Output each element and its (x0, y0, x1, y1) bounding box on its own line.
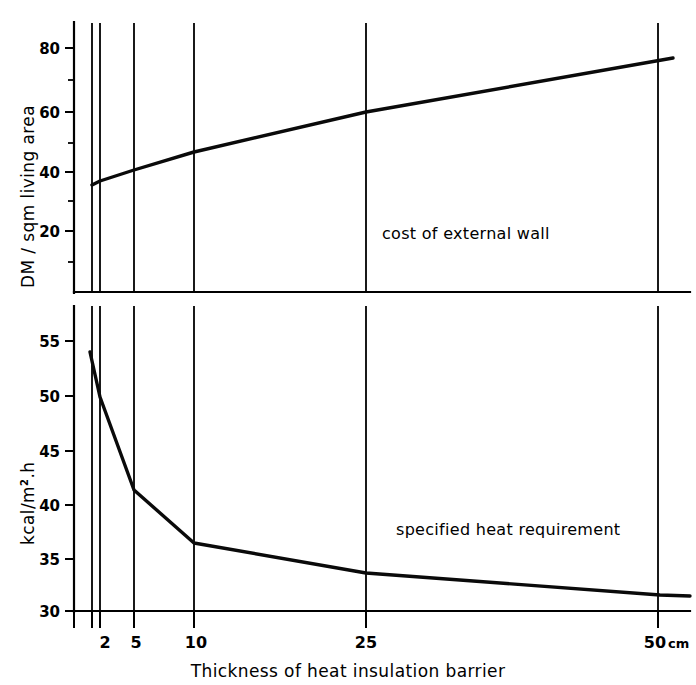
bottom-y-axis-title-group: kcal/m2.h (18, 462, 38, 545)
bottom-gridlines (92, 306, 658, 611)
top-series-annotation: cost of external wall (382, 224, 550, 243)
top-y-ticks (65, 48, 74, 262)
xaxis-unit-label: cm (668, 636, 689, 651)
series-specified-heat-requirement (90, 352, 690, 596)
chart-figure: 80 60 40 20 DM / sqm living area cost of… (0, 0, 696, 685)
top-panel: 80 60 40 20 DM / sqm living area cost of… (18, 22, 690, 293)
xtick-label-2: 2 (99, 633, 110, 652)
bottom-ytick-label-55: 55 (39, 333, 60, 351)
xtick-label-50: 50 (644, 633, 666, 652)
x-axis-title: Thickness of heat insulation barrier (190, 661, 506, 681)
bottom-y-ticks (65, 341, 74, 611)
top-ytick-label-60: 60 (39, 104, 60, 122)
x-axis-group: 2 5 10 25 50 cm Thickness of heat insula… (74, 611, 689, 681)
chart-canvas: 80 60 40 20 DM / sqm living area cost of… (0, 0, 696, 685)
bottom-ytick-label-50: 50 (39, 388, 60, 406)
bottom-series-annotation: specified heat requirement (396, 520, 620, 539)
top-y-axis-title: DM / sqm living area (18, 105, 38, 288)
bottom-ytick-label-40: 40 (39, 497, 60, 515)
bottom-ytick-label-30: 30 (39, 603, 60, 621)
bottom-y-axis-title-tail: .h (18, 462, 38, 479)
xtick-label-10: 10 (185, 633, 207, 652)
bottom-y-axis-title-base: kcal/m (18, 486, 38, 545)
bottom-ytick-label-45: 45 (39, 443, 60, 461)
x-ticks (74, 611, 658, 628)
bottom-y-axis-title: kcal/m2.h (18, 462, 38, 545)
bottom-ytick-label-35: 35 (39, 551, 60, 569)
xtick-label-5: 5 (130, 633, 141, 652)
series-cost-of-external-wall (92, 58, 673, 185)
xtick-label-25: 25 (355, 633, 377, 652)
bottom-panel: 55 50 45 40 35 30 kcal/m2.h specified he… (18, 306, 690, 621)
bottom-y-axis-title-sup: 2 (19, 479, 30, 486)
top-ytick-label-20: 20 (39, 223, 60, 241)
top-ytick-label-80: 80 (39, 40, 60, 58)
top-ytick-label-40: 40 (39, 164, 60, 182)
